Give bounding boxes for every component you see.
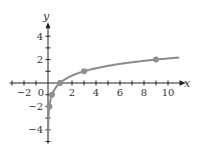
data-point <box>81 68 87 74</box>
y-tick-label: −4 <box>28 124 43 135</box>
data-point <box>46 103 52 109</box>
x-tick-label: 6 <box>117 87 123 98</box>
x-tick-label: −2 <box>17 87 32 98</box>
chart: −2024681042−2−4 x y <box>0 0 204 152</box>
y-axis-label: y <box>42 10 50 23</box>
log-curve <box>48 58 179 141</box>
x-tick-label: 4 <box>93 87 99 98</box>
y-tick-label: 4 <box>37 31 43 42</box>
y-tick-label: −2 <box>28 101 43 112</box>
y-axis-arrow-icon <box>46 22 51 28</box>
data-point <box>153 57 159 63</box>
data-point <box>57 80 63 86</box>
x-axis-label: x <box>184 77 191 90</box>
x-tick-label: 10 <box>162 87 175 98</box>
x-tick-label: 2 <box>69 87 75 98</box>
x-tick-label: 8 <box>141 87 147 98</box>
data-point <box>49 92 55 98</box>
y-tick-label: 2 <box>37 54 43 65</box>
x-tick-label: 0 <box>38 87 44 98</box>
